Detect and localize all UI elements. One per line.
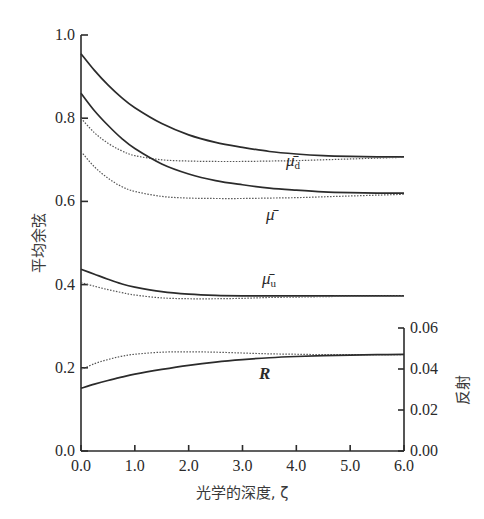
x-tick-label: 4.0 [286,457,306,474]
series-line-0 [81,54,404,157]
y-right-tick-label: 0.02 [410,401,438,418]
chart: 0.01.02.03.04.05.06.00.00.20.40.60.81.00… [0,0,484,519]
x-tick-label: 0.0 [71,457,91,474]
series-line-2 [81,93,404,193]
x-tick-label: 6.0 [394,457,414,474]
y-tick-label: 0.2 [55,359,75,376]
y-tick-label: 1.0 [55,26,75,43]
y-right-tick-label: 0.00 [410,442,438,459]
label-R: R [258,364,270,383]
y-tick-label: 0.8 [55,109,75,126]
y-axis-right-title: 反射 [454,375,472,405]
x-tick-label: 3.0 [233,457,253,474]
x-tick-label: 1.0 [125,457,145,474]
label-mu-u: μ̄u [261,269,277,289]
series-line-4 [81,269,404,296]
y-right-tick-label: 0.06 [410,319,438,336]
axes: 0.01.02.03.04.05.06.00.00.20.40.60.81.00… [55,26,438,474]
series-line-7 [81,354,404,388]
y-tick-label: 0.4 [55,276,75,293]
x-tick-label: 2.0 [179,457,199,474]
y-tick-label: 0.6 [55,192,75,209]
x-tick-label: 5.0 [340,457,360,474]
y-tick-label: 0.0 [55,442,75,459]
label-mu: μ̄ [265,205,280,224]
y-right-tick-label: 0.04 [410,360,438,377]
x-axis-title: 光学的深度, ζ [196,484,289,502]
plot-area [81,54,404,389]
series-line-3 [81,151,404,198]
series-line-1 [81,118,404,161]
y-axis-title: 平均余弦 [30,213,48,273]
